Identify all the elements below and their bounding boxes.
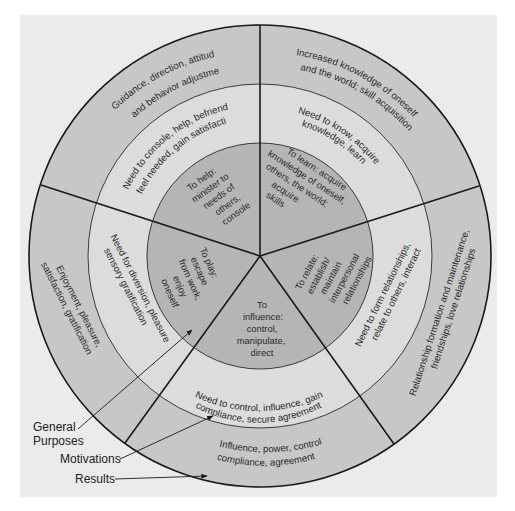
svg-text:direct: direct bbox=[251, 347, 274, 358]
svg-text:Purposes: Purposes bbox=[33, 434, 84, 448]
communication-purposes-wheel: Guidance, direction, attitude and behavi… bbox=[0, 0, 515, 511]
svg-text:Results: Results bbox=[75, 472, 115, 486]
svg-text:manipulate,: manipulate, bbox=[237, 335, 285, 346]
svg-text:control,: control, bbox=[247, 323, 278, 334]
svg-text:To: To bbox=[257, 299, 267, 310]
svg-text:influence:: influence: bbox=[243, 311, 283, 322]
svg-text:General: General bbox=[33, 420, 76, 434]
svg-text:Motivations: Motivations bbox=[60, 452, 121, 466]
